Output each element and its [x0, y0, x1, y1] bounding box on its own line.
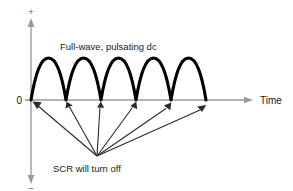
turnoff-pointer-2 [65, 102, 97, 157]
turnoff-pointer-4 [97, 102, 137, 157]
zero-label: 0 [16, 95, 22, 106]
waveform-trace [31, 58, 206, 100]
turnoff-annotation-label: SCR will turn off [53, 163, 121, 174]
full-wave-pulsating-dc-curve [31, 58, 206, 100]
turnoff-pointers [33, 102, 207, 157]
turnoff-pointer-1 [33, 102, 98, 157]
waveform-annotation-label: Full-wave, pulsating dc [60, 41, 157, 52]
turnoff-pointer-5 [97, 103, 171, 157]
x-axis-arrow-icon [244, 97, 253, 103]
y-axis-minus-label: – [28, 183, 33, 191]
turnoff-pointer-6 [97, 105, 206, 156]
time-axis-label: Time [260, 95, 282, 106]
y-axis-up-arrow-icon [28, 18, 35, 27]
x-axis [25, 97, 253, 103]
y-axis-plus-label: + [28, 7, 33, 17]
figure-container: + – 0 Time [0, 0, 293, 191]
waveform-diagram: + – 0 Time [0, 0, 293, 191]
